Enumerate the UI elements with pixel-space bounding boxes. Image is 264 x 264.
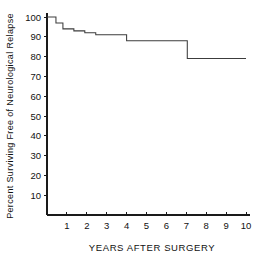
x-tick-label-8: 8 <box>204 220 209 231</box>
chart-canvas: Percent Surviving Free of Neurological R… <box>0 0 264 264</box>
y-tick-label-40: 40 <box>30 130 41 141</box>
x-tick-label-5: 5 <box>144 220 149 231</box>
x-tick-label-2: 2 <box>84 220 89 231</box>
y-tick-label-90: 90 <box>30 31 41 42</box>
survival-step-curve <box>47 17 246 59</box>
y-tick-label-30: 30 <box>30 150 41 161</box>
x-tick-label-3: 3 <box>104 220 109 231</box>
x-tick-label-1: 1 <box>64 220 69 231</box>
y-tick-label-100: 100 <box>25 12 41 23</box>
x-tick-label-7: 7 <box>184 220 189 231</box>
y-axis-title: Percent Surviving Free of Neurological R… <box>5 13 15 219</box>
y-tick-label-70: 70 <box>30 71 41 82</box>
y-tick-label-20: 20 <box>30 170 41 181</box>
y-tick-label-60: 60 <box>30 91 41 102</box>
y-tick-label-80: 80 <box>30 51 41 62</box>
x-tick-label-4: 4 <box>124 220 129 231</box>
x-tick-label-9: 9 <box>223 220 228 231</box>
y-tick-label-50: 50 <box>30 111 41 122</box>
x-tick-label-10: 10 <box>241 220 252 231</box>
x-tick-label-6: 6 <box>164 220 169 231</box>
y-tick-label-10: 10 <box>30 190 41 201</box>
x-axis-title: YEARS AFTER SURGERY <box>89 242 215 253</box>
